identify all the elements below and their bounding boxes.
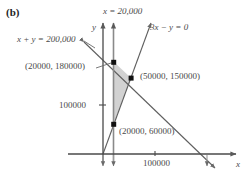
point-label-vertex-right: (50000, 150000): [140, 72, 200, 81]
label-constraint-xmin: x = 20,000: [103, 7, 142, 16]
label-constraint-ratio: 3x − y = 0: [150, 23, 188, 32]
vertex-marker-top: [111, 60, 116, 65]
point-label-vertex-bottom: (20000, 60000): [119, 127, 175, 136]
feasible-region-shading: [114, 62, 132, 125]
graph-canvas: [0, 0, 248, 179]
y-axis-tick-label: 100000: [59, 101, 86, 110]
label-constraint-xmin-text: x = 20,000: [103, 6, 142, 16]
vertex-marker-right: [129, 76, 134, 81]
label-constraint-ratio-text: 3x − y = 0: [150, 22, 188, 32]
label-constraint-sum: x + y = 200,000: [17, 35, 75, 44]
x-axis-tick-label: 100000: [143, 159, 170, 168]
point-label-vertex-top: (20000, 180000): [25, 62, 85, 71]
vertex-marker-bottom: [111, 122, 116, 127]
axis-label-y: y: [92, 23, 96, 32]
label-constraint-sum-text: x + y = 200,000: [17, 34, 75, 44]
axis-label-x: x: [236, 160, 240, 169]
panel-label: (b): [6, 7, 19, 18]
linear-programming-figure: (b) x = 20,000 3x − y = 0 x + y = 200,00…: [0, 0, 248, 179]
